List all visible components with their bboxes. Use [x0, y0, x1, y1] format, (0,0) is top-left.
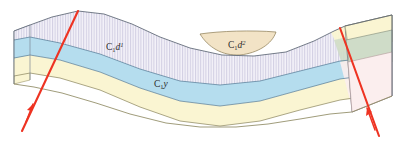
geological-block-diagram: C1d1 C1d2 C1y [0, 0, 405, 141]
left-fault-slip-arrow [26, 104, 33, 122]
right-face-pink-unit [348, 52, 392, 112]
label-lower-root: y [163, 79, 169, 89]
cross-section-canvas: C1d1 C1d2 C1y [0, 0, 405, 141]
label-left-superscript: 1 [120, 41, 123, 48]
left-arrow-head [27, 104, 33, 111]
